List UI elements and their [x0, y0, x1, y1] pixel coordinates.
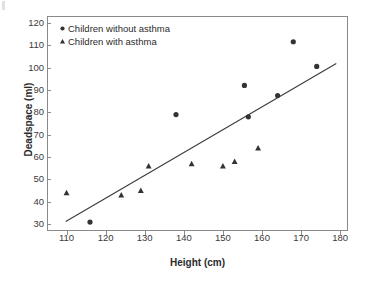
x-tick-mark [106, 231, 107, 235]
y-tick-mark [47, 68, 51, 69]
x-axis-title: Height (cm) [47, 257, 348, 268]
y-axis-title: Deadspace (ml) [23, 40, 34, 200]
circle-marker-icon [56, 24, 68, 33]
x-tick-mark [145, 231, 146, 235]
legend-label-with-asthma: Children with asthma [68, 37, 157, 47]
y-tick-label: 120 [16, 18, 44, 28]
data-point-triangle [220, 163, 226, 168]
x-tick-mark [262, 231, 263, 235]
series-with-asthma [64, 145, 261, 197]
x-tick-mark [223, 231, 224, 235]
scan-artifact [2, 1, 5, 10]
x-tick-mark [67, 231, 68, 235]
regression-line [66, 63, 337, 221]
y-tick-mark [47, 157, 51, 158]
x-tick-mark [340, 231, 341, 235]
triangle-marker-icon [56, 37, 68, 46]
data-point-circle [314, 64, 319, 69]
data-point-triangle [118, 192, 124, 197]
legend: Children without asthma Children with as… [56, 22, 216, 48]
y-tick-mark [47, 112, 51, 113]
legend-item-with-asthma: Children with asthma [56, 35, 216, 48]
legend-item-without-asthma: Children without asthma [56, 22, 216, 35]
y-tick-mark [47, 202, 51, 203]
y-tick-mark [47, 90, 51, 91]
data-point-triangle [64, 190, 70, 195]
y-tick-mark [47, 45, 51, 46]
data-point-circle [173, 112, 178, 117]
y-tick-label: 30 [16, 220, 44, 230]
data-point-triangle [138, 188, 144, 193]
y-tick-mark [47, 23, 51, 24]
y-tick-mark [47, 135, 51, 136]
y-tick-mark [47, 224, 51, 225]
scatter-plot-figure: 30405060708090100110120 1101201301401501… [0, 0, 365, 284]
y-tick-mark [47, 179, 51, 180]
data-point-circle [242, 83, 247, 88]
data-point-triangle [146, 163, 152, 168]
plot-data-layer [47, 16, 348, 231]
data-point-triangle [189, 161, 195, 166]
x-tick-mark [184, 231, 185, 235]
data-point-circle [275, 93, 280, 98]
data-point-circle [291, 39, 296, 44]
x-axis-tick-labels: 110120130140150160170180 [47, 233, 348, 247]
data-point-circle [87, 219, 92, 224]
data-point-triangle [232, 158, 238, 163]
legend-label-without-asthma: Children without asthma [68, 24, 170, 34]
data-point-triangle [255, 145, 261, 150]
data-point-circle [246, 114, 251, 119]
x-tick-mark [301, 231, 302, 235]
